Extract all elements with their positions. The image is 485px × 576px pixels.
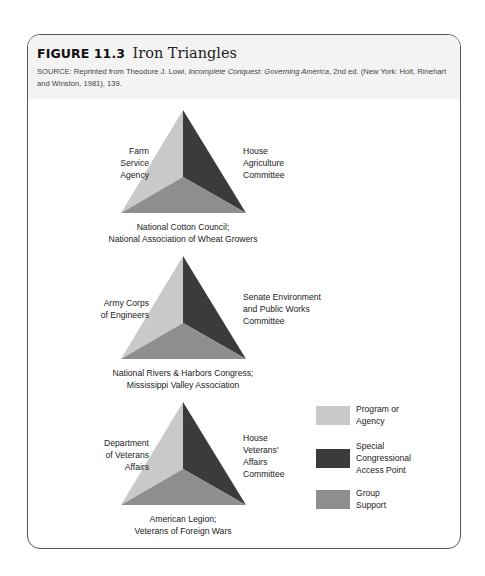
label-line: Access Point [356,464,411,476]
label-line: Support [356,499,386,511]
label-line: Committee [243,315,321,327]
label-line: Army Corps [101,297,149,309]
label-line: Affairs [104,461,149,473]
label-line: Mississippi Valley Association [63,379,303,391]
triangle-2-group-label: National Rivers & Harbors Congress; Miss… [63,367,303,391]
triangle-3-congress-label: House Veterans' Affairs Committee [243,432,285,480]
label-line: Department [104,437,149,449]
label-line: and Public Works [243,303,321,315]
label-line: Committee [243,169,285,181]
legend-swatch-agency [316,406,350,425]
label-line: Committee [243,468,285,480]
label-line: Group [356,487,386,499]
triangle-1-congress-label: House Agriculture Committee [243,145,285,181]
legend-swatch-group [316,490,350,509]
figure-frame: FIGURE 11.3 Iron Triangles SOURCE: Repri… [27,34,461,549]
label-line: Veterans of Foreign Wars [63,525,303,537]
legend-label-congress: Special Congressional Access Point [356,440,411,476]
label-line: House [243,432,285,444]
label-line: National Cotton Council; [63,221,303,233]
label-line: Agency [356,415,399,427]
triangle-3-group-label: American Legion; Veterans of Foreign War… [63,513,303,537]
label-line: Farm [120,145,149,157]
label-line: Congressional [356,452,411,464]
label-line: Senate Environment [243,291,321,303]
label-line: House [243,145,285,157]
triangle-1-group-label: National Cotton Council; National Associ… [63,221,303,245]
triangle-3-agency-label: Department of Veterans Affairs [104,437,149,473]
label-line: Agriculture [243,157,285,169]
label-line: Agency [120,169,149,181]
label-line: National Association of Wheat Growers [63,233,303,245]
label-line: American Legion; [63,513,303,525]
label-line: Service [120,157,149,169]
legend-label-agency: Program or Agency [356,403,399,427]
label-line: National Rivers & Harbors Congress; [63,367,303,379]
label-line: Program or [356,403,399,415]
triangle-2-agency-label: Army Corps of Engineers [101,297,149,321]
label-line: Special [356,440,411,452]
legend-swatch-congress [316,449,350,468]
legend-label-group: Group Support [356,487,386,511]
label-line: of Veterans [104,449,149,461]
label-line: Veterans' [243,444,285,456]
triangle-1-agency-label: Farm Service Agency [120,145,149,181]
triangle-2-congress-label: Senate Environment and Public Works Comm… [243,291,321,327]
label-line: Affairs [243,456,285,468]
label-line: of Engineers [101,309,149,321]
